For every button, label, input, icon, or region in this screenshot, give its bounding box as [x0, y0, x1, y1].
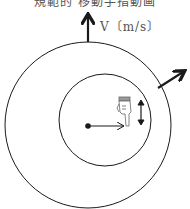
rotation-diagram	[0, 0, 190, 209]
inner-circle	[59, 74, 151, 166]
pointing-hand-icon	[117, 97, 131, 126]
velocity-arrow-diagonal-icon	[158, 72, 183, 88]
up-down-arrow-icon	[138, 100, 144, 125]
